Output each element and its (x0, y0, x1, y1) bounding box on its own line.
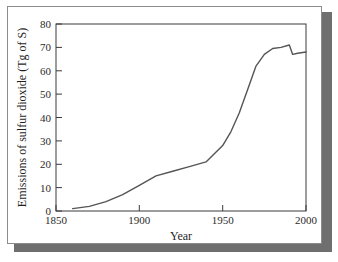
x-tick-label: 1950 (212, 214, 235, 226)
y-axis-tick-labels: 0 10 20 30 40 50 60 70 80 (40, 18, 52, 217)
y-axis-ticks (56, 24, 62, 211)
y-tick-label: 50 (40, 88, 52, 100)
x-axis-ticks (56, 205, 306, 211)
y-tick-label: 60 (40, 65, 52, 77)
chart-figure: 0 10 20 30 40 50 60 70 80 (8, 7, 323, 245)
x-axis-tick-labels: 1850 1900 1950 2000 (45, 214, 318, 226)
sulfur-dioxide-line-chart: 0 10 20 30 40 50 60 70 80 (8, 7, 323, 245)
y-axis-title: Emissions of sulfur dioxide (Tg of S) (15, 28, 29, 207)
y-tick-label: 70 (40, 41, 52, 53)
y-tick-label: 40 (40, 112, 52, 124)
x-axis-title: Year (170, 229, 192, 243)
x-tick-label: 1900 (128, 214, 151, 226)
x-tick-label: 1850 (45, 214, 68, 226)
data-series-line (73, 45, 306, 209)
y-tick-label: 20 (40, 158, 52, 170)
y-tick-label: 80 (40, 18, 52, 30)
screenshot-root: 0 10 20 30 40 50 60 70 80 (0, 0, 338, 262)
series-group (73, 45, 306, 209)
y-tick-label: 30 (40, 135, 52, 147)
figure-card: 0 10 20 30 40 50 60 70 80 (7, 6, 322, 244)
x-tick-label: 2000 (295, 214, 318, 226)
y-tick-label: 10 (40, 182, 52, 194)
